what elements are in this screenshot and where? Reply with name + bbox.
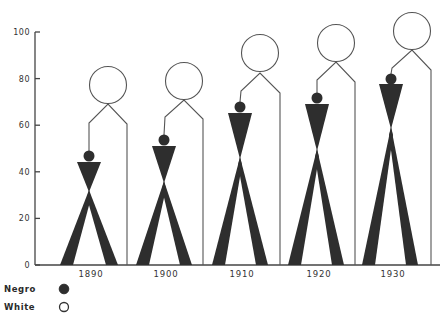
- figure-pair-1890: [60, 67, 127, 266]
- y-tick-label: 60: [19, 121, 30, 130]
- legend-label-white: White: [4, 302, 35, 312]
- x-tick-label: 1930: [381, 269, 406, 279]
- y-tick-label: 0: [24, 261, 30, 270]
- negro-left-leg: [288, 149, 319, 265]
- white-head-icon: [242, 35, 279, 72]
- negro-torso: [228, 113, 252, 159]
- negro-torso: [77, 162, 101, 192]
- white-figure: [240, 35, 280, 266]
- negro-right-leg: [162, 181, 192, 265]
- white-head-icon: [318, 25, 355, 62]
- negro-right-leg: [315, 149, 344, 265]
- x-tick-label: 1910: [230, 269, 255, 279]
- white-head-icon: [394, 13, 431, 50]
- x-tick-label: 1920: [307, 269, 332, 279]
- y-tick-label: 40: [19, 168, 30, 177]
- x-tick-label: 1890: [79, 269, 104, 279]
- y-ticks: 020406080100: [13, 28, 40, 270]
- figures-group: [60, 13, 431, 266]
- negro-figure: [60, 151, 118, 266]
- white-head-icon: [90, 67, 127, 104]
- white-head-icon: [166, 63, 203, 100]
- figure-pair-1910: [212, 35, 280, 266]
- negro-head-icon: [84, 151, 95, 162]
- negro-left-leg: [362, 127, 393, 265]
- x-axis-labels: 18901900191019201930: [79, 269, 406, 279]
- x-tick-label: 1900: [154, 269, 179, 279]
- negro-head-icon: [235, 102, 246, 113]
- pictogram-chart: 020406080100 18901900191019201930 Negro …: [0, 0, 447, 321]
- filled-circle-icon: [59, 284, 69, 294]
- negro-torso: [152, 146, 176, 183]
- negro-right-leg: [389, 127, 418, 265]
- legend: Negro White: [4, 284, 69, 312]
- white-figure: [391, 13, 431, 266]
- negro-head-icon: [386, 74, 397, 85]
- open-circle-icon: [60, 303, 69, 312]
- figure-pair-1900: [136, 63, 203, 266]
- negro-right-leg: [87, 190, 118, 265]
- y-tick-label: 80: [19, 75, 30, 84]
- negro-left-leg: [136, 181, 166, 265]
- legend-label-negro: Negro: [4, 284, 36, 294]
- figure-pair-1930: [362, 13, 431, 266]
- negro-right-leg: [238, 157, 268, 265]
- white-figure: [317, 25, 355, 266]
- legend-item-white: White: [4, 302, 69, 312]
- negro-left-leg: [60, 190, 91, 265]
- negro-torso: [379, 84, 403, 129]
- legend-item-negro: Negro: [4, 284, 69, 294]
- negro-figure: [212, 102, 268, 266]
- y-axis: 020406080100: [13, 28, 40, 270]
- y-tick-label: 20: [19, 214, 30, 223]
- y-tick-label: 100: [13, 28, 30, 37]
- negro-torso: [305, 104, 329, 151]
- negro-left-leg: [212, 157, 242, 265]
- negro-figure: [288, 93, 344, 266]
- figure-pair-1920: [288, 25, 355, 266]
- negro-figure: [362, 74, 418, 266]
- negro-head-icon: [312, 93, 323, 104]
- negro-figure: [136, 135, 192, 266]
- negro-head-icon: [159, 135, 170, 146]
